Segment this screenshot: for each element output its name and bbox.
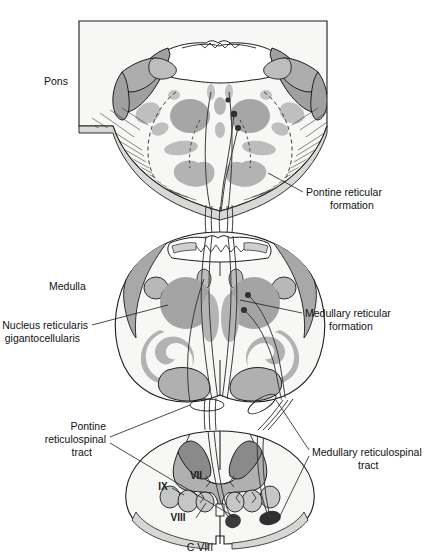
label-lamina-ix: IX <box>158 481 168 492</box>
motor-nucleus-left-3 <box>196 492 214 512</box>
label-medullary-reticular-formation-line2: formation <box>329 320 373 332</box>
label-pontine-reticular-formation-line1: Pontine reticular <box>306 186 382 198</box>
pons-raphe-nucleus-low <box>215 122 225 138</box>
motor-nucleus-right-2 <box>242 490 262 512</box>
pons-raphe-nucleus-mid <box>214 97 226 115</box>
label-pons: Pons <box>44 75 68 87</box>
motor-nucleus-right-1 <box>260 486 280 508</box>
label-lamina-viii: VIII <box>170 512 185 523</box>
label-pontine-reticular-formation-line2: formation <box>330 199 374 211</box>
pons-nucleus-left-medial <box>170 99 210 133</box>
label-pontine-reticulospinal-tract-line2: reticulospinal <box>45 433 106 445</box>
label-medullary-reticular-formation-line1: Medullary reticular <box>305 307 391 319</box>
pons-nucleus-left-small <box>168 90 180 100</box>
fourth-ventricle-pons <box>156 41 284 83</box>
label-cord-level: C VIII <box>187 541 213 553</box>
label-nucleus-reticularis-line1: Nucleus reticularis <box>2 319 88 331</box>
spinal-cord-section <box>126 431 315 549</box>
label-medullary-reticulospinal-tract-line2: tract <box>358 459 379 471</box>
label-nucleus-reticularis-line2: gigantocellularis <box>5 332 80 344</box>
pons-nucleus-right-small <box>260 90 272 100</box>
label-pontine-reticulospinal-tract-line3: tract <box>72 446 93 458</box>
label-medulla: Medulla <box>49 280 86 292</box>
label-medullary-reticulospinal-tract-line1: Medullary reticulospinal <box>312 446 422 458</box>
diagram-canvas: Pons Medulla Pontine reticular formation… <box>0 0 440 558</box>
label-lamina-vii: VII <box>190 470 202 481</box>
reticulospinal-tract-diagram: Pons Medulla Pontine reticular formation… <box>0 0 440 558</box>
label-pontine-reticulospinal-tract-line1: Pontine <box>70 420 106 432</box>
motor-nucleus-right-3 <box>226 492 244 512</box>
